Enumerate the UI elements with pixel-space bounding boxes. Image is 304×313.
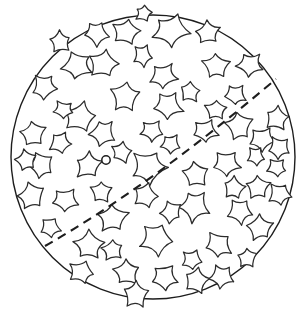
center-point-marker [102, 156, 110, 164]
figure-container [0, 0, 304, 313]
star-ball-figure [0, 0, 304, 313]
